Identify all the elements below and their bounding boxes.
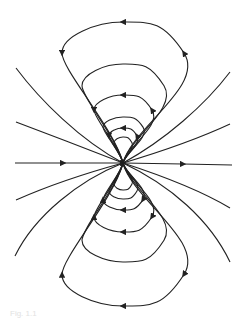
field-line-open [16,163,123,200]
field-loop-top [62,22,188,163]
dipole-diagram: Fig. 1.1 [0,0,246,321]
field-line-open [16,68,123,163]
field-line-open [123,72,230,163]
field-loop-bottom [62,163,188,306]
figure-caption: Fig. 1.1 [10,309,37,318]
field-line-open [123,163,230,262]
field-line-open [123,124,230,163]
field-line-open [15,163,123,256]
field-lines-svg [0,0,246,321]
